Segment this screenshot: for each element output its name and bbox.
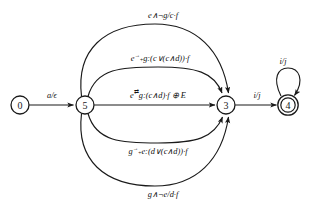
label-suffix: e:(d∨(c∧d))·f — [141, 147, 189, 156]
transition-3-to-4: i/j — [235, 91, 276, 106]
state-label-0: 0 — [18, 100, 23, 111]
label-suffix: g:(c∧d)·f ⊕ E — [139, 91, 186, 100]
automaton-diagram: a/ϵ e∧¬g/c·f e→+g:(c∨(c∧d))·f e⇄g:(c∧d)·… — [0, 0, 316, 211]
edge-label-5-3-outer-bottom: g∧¬e/d·f — [148, 190, 180, 199]
edge-label-5-3-middle: e⇄g:(c∧d)·f ⊕ E — [130, 89, 186, 99]
state-label-3: 3 — [224, 100, 229, 111]
edge-path-4-self — [277, 68, 300, 96]
state-label-4: 4 — [286, 100, 291, 111]
transition-0-to-5: a/ϵ — [29, 91, 73, 106]
state-node-0[interactable]: 0 — [11, 96, 29, 114]
edge-label-0-5: a/ϵ — [47, 91, 58, 100]
edge-label-3-4: i/j — [254, 91, 262, 100]
state-node-3[interactable]: 3 — [217, 96, 235, 114]
edge-label-5-3-inner-bottom: g→+e:(d∨(c∧d))·f — [128, 145, 189, 157]
state-node-5[interactable]: 5 — [76, 96, 94, 114]
edge-label-4-self: i/j — [280, 57, 288, 66]
state-label-5: 5 — [83, 100, 88, 111]
transition-4-self-loop: i/j — [277, 57, 300, 97]
automaton-canvas: a/ϵ e∧¬g/c·f e→+g:(c∨(c∧d))·f e⇄g:(c∧d)·… — [0, 0, 316, 211]
edge-label-5-3-outer-top: e∧¬g/c·f — [148, 11, 180, 20]
transition-5-to-3-inner-bottom: g→+e:(d∨(c∧d))·f — [88, 114, 223, 157]
state-node-4-accepting[interactable]: 4 — [278, 95, 298, 115]
label-suffix: g:(c∨(c∧d))·f — [143, 54, 191, 63]
transition-5-to-3-middle: e⇄g:(c∧d)·f ⊕ E — [94, 89, 215, 105]
edge-path-5-3-inner-bottom — [88, 114, 223, 144]
edge-label-5-3-inner-top: e→+g:(c∨(c∧d))·f — [131, 52, 191, 64]
transition-5-to-3-outer-bottom: g∧¬e/d·f — [81, 114, 229, 199]
